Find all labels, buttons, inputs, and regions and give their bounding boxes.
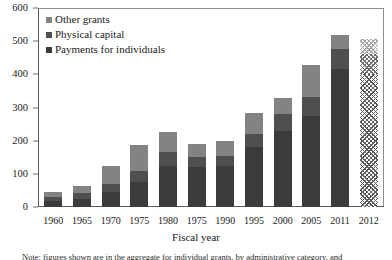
x-axis-tick-label: 1980 — [158, 216, 178, 226]
x-axis-tick-label: 1965 — [72, 216, 92, 226]
x-axis-tick-label: 2005 — [301, 216, 321, 226]
bar-1975 — [188, 144, 206, 207]
x-axis: 1960196519701975198019751990199520002005… — [39, 208, 383, 230]
bar-segment — [102, 192, 120, 207]
bar-segment — [360, 74, 378, 207]
bar-segment — [274, 98, 292, 115]
bar-segment — [245, 134, 263, 147]
y-axis-tick-label: 500 — [12, 36, 28, 47]
y-axis-tick-mark — [33, 107, 38, 108]
bar-segment — [245, 113, 263, 135]
y-axis-tick-label: 600 — [12, 3, 28, 14]
legend-label: Payments for individuals — [55, 44, 165, 55]
legend-item: Physical capital — [46, 29, 165, 40]
bar-segment — [159, 166, 177, 207]
bar-segment — [102, 184, 120, 192]
bar-segment — [302, 97, 320, 116]
bar-segment — [331, 69, 349, 207]
bar-segment — [274, 114, 292, 131]
y-axis-tick-mark — [33, 8, 38, 9]
legend-item: Other grants — [46, 14, 165, 25]
y-axis-tick-label: 300 — [12, 102, 28, 113]
bar-segment — [130, 171, 148, 183]
bar-1965 — [73, 186, 91, 207]
bar-segment — [44, 201, 62, 207]
bar-segment — [130, 182, 148, 207]
bar-1990 — [216, 141, 234, 207]
chart-figure: 0100200300400500600 19601965197019751980… — [0, 0, 392, 260]
bar-segment — [302, 65, 320, 97]
y-axis-tick-label: 100 — [12, 169, 28, 180]
y-axis-tick-mark — [33, 41, 38, 42]
bar-1970 — [102, 166, 120, 207]
x-axis-tick-label: 1960 — [43, 216, 63, 226]
bar-segment — [331, 35, 349, 49]
bar-segment — [188, 157, 206, 167]
legend-swatch-icon — [46, 47, 52, 53]
legend-swatch-icon — [46, 17, 52, 23]
x-axis-tick-label: 1975 — [129, 216, 149, 226]
bar-segment — [73, 199, 91, 207]
bar-segment — [188, 144, 206, 157]
y-axis: 0100200300400500600 — [0, 0, 38, 215]
chart-footnote: Note: figures shown are in the aggregate… — [22, 253, 384, 260]
bar-segment — [188, 167, 206, 207]
bar-segment — [331, 49, 349, 70]
y-axis-tick-mark — [33, 173, 38, 174]
x-axis-tick-label: 1990 — [215, 216, 235, 226]
x-axis-tick-label: 1975 — [187, 216, 207, 226]
bar-segment — [216, 156, 234, 166]
x-axis-tick-label: 2012 — [359, 216, 379, 226]
legend-label: Physical capital — [55, 29, 124, 40]
x-axis-tick-label: 1995 — [244, 216, 264, 226]
bar-segment — [274, 131, 292, 207]
bar-segment — [360, 54, 378, 74]
bar-2000 — [274, 98, 292, 207]
y-axis-tick-label: 200 — [12, 135, 28, 146]
bar-segment — [216, 141, 234, 155]
bar-1995 — [245, 113, 263, 208]
bar-segment — [216, 166, 234, 207]
chart-legend: Other grantsPhysical capitalPayments for… — [46, 14, 165, 55]
bar-1975 — [130, 145, 148, 207]
legend-item: Payments for individuals — [46, 44, 165, 55]
x-axis-tick-label: 1970 — [101, 216, 121, 226]
bar-2011 — [331, 35, 349, 207]
legend-label: Other grants — [55, 14, 110, 25]
bar-2005 — [302, 65, 320, 207]
y-axis-tick-mark — [33, 207, 38, 208]
bar-segment — [73, 186, 91, 193]
bar-segment — [159, 132, 177, 152]
bar-segment — [130, 145, 148, 171]
bar-1960 — [44, 192, 62, 207]
bar-segment — [102, 166, 120, 184]
bar-2012-projected — [360, 39, 378, 207]
bar-segment — [302, 116, 320, 207]
bar-segment — [159, 152, 177, 166]
legend-swatch-icon — [46, 32, 52, 38]
bar-1980 — [159, 132, 177, 207]
x-axis-tick-label: 2000 — [273, 216, 293, 226]
x-axis-tick-label: 2011 — [330, 216, 350, 226]
y-axis-tick-label: 400 — [12, 69, 28, 80]
y-axis-tick-mark — [33, 74, 38, 75]
y-axis-tick-mark — [33, 140, 38, 141]
bar-segment — [245, 147, 263, 207]
bar-segment — [360, 39, 378, 55]
y-axis-tick-label: 0 — [23, 202, 28, 213]
x-axis-title: Fiscal year — [0, 231, 392, 243]
